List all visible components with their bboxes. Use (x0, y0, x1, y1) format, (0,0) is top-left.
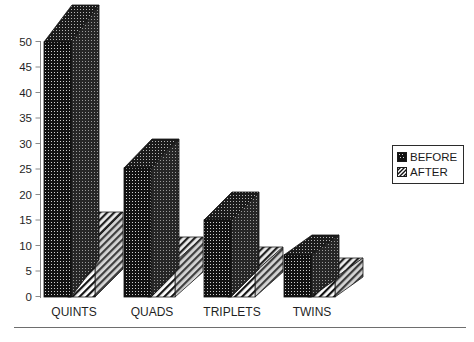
bar-quads-before (124, 139, 179, 297)
bottom-divider (14, 327, 466, 328)
x-axis-category-labels: QUINTS QUADS TRIPLETS TWINS (51, 305, 331, 319)
legend-label-after: AFTER (410, 166, 448, 178)
legend-label-before: BEFORE (410, 151, 457, 163)
bar-group-quints (44, 5, 123, 297)
y-tick-label: 25 (19, 163, 32, 175)
bar-quints-before (44, 5, 99, 297)
y-axis-ticks (36, 42, 41, 297)
y-tick-label: 15 (19, 214, 32, 226)
bar-group-triplets (204, 192, 283, 297)
category-label-twins: TWINS (293, 305, 332, 319)
y-axis: 50 45 40 35 30 25 20 15 10 5 0 (19, 36, 40, 303)
chart-legend: BEFORE AFTER (392, 145, 464, 184)
y-tick-label: 30 (19, 138, 32, 150)
bar-chart: 50 45 40 35 30 25 20 15 10 5 0 (0, 0, 474, 342)
legend-swatch-before-icon (397, 152, 407, 162)
y-tick-label: 0 (26, 291, 32, 303)
legend-swatch-after-icon (397, 167, 407, 177)
legend-item-after: AFTER (397, 164, 459, 179)
bar-group-quads (124, 139, 203, 297)
y-tick-label: 5 (26, 265, 32, 277)
y-tick-label: 45 (19, 61, 32, 73)
category-label-quads: QUADS (131, 305, 174, 319)
bar-group-twins (284, 235, 363, 297)
y-axis-tick-labels: 50 45 40 35 30 25 20 15 10 5 0 (19, 36, 32, 303)
y-tick-label: 40 (19, 87, 32, 99)
y-tick-label: 35 (19, 112, 32, 124)
category-label-triplets: TRIPLETS (203, 305, 260, 319)
y-tick-label: 10 (19, 240, 32, 252)
y-tick-label: 50 (19, 36, 32, 48)
y-tick-label: 20 (19, 189, 32, 201)
category-label-quints: QUINTS (51, 305, 96, 319)
legend-item-before: BEFORE (397, 149, 459, 164)
